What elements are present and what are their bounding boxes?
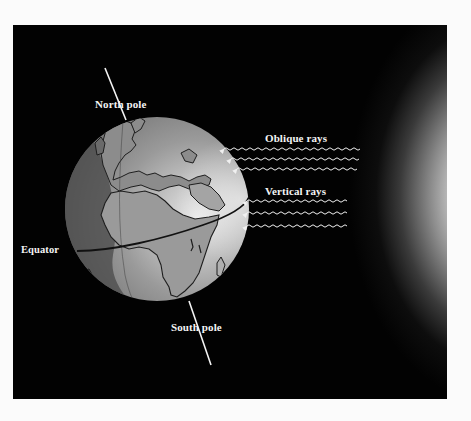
oblique-ray-3 bbox=[237, 168, 357, 170]
north-axis-line bbox=[105, 68, 126, 120]
north-pole-label: North pole bbox=[95, 98, 146, 110]
vertical-ray-group bbox=[247, 200, 347, 227]
vertical-ray-2 bbox=[247, 212, 347, 214]
equator-label: Equator bbox=[21, 244, 59, 255]
earth-sun-illustration bbox=[13, 25, 447, 399]
oblique-rays-label: Oblique rays bbox=[265, 132, 327, 144]
vertical-rays-label: Vertical rays bbox=[265, 185, 326, 197]
oblique-ray-1 bbox=[224, 148, 360, 150]
vertical-ray-1 bbox=[247, 200, 347, 202]
oblique-ray-2 bbox=[231, 158, 359, 160]
diagram-frame: North pole Oblique rays Vertical rays Eq… bbox=[13, 25, 447, 399]
earth-globe bbox=[43, 85, 249, 325]
south-pole-label: South pole bbox=[171, 321, 222, 333]
south-axis-line bbox=[189, 301, 211, 365]
oblique-ray-group bbox=[224, 148, 360, 170]
vertical-ray-3 bbox=[247, 225, 347, 227]
